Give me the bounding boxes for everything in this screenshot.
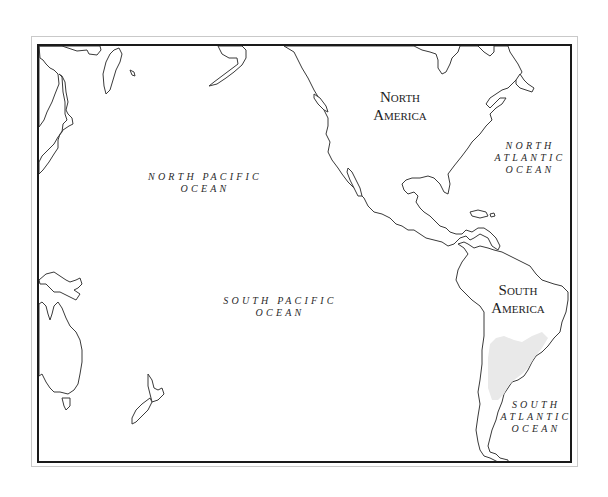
label-north-atlantic-ocean: NORTH ATLANTIC OCEAN — [485, 140, 575, 176]
australia — [39, 302, 82, 394]
tasmania — [62, 398, 70, 410]
new-guinea — [39, 272, 82, 300]
alaska-peninsula — [209, 46, 246, 86]
label-south-america-line2: America — [478, 299, 558, 317]
label-north-pacific-ocean: NORTH PACIFIC OCEAN — [130, 171, 280, 195]
label-south-pacific-line2: OCEAN — [205, 307, 355, 319]
label-south-america: South America — [478, 281, 558, 317]
label-south-atlantic-line3: OCEAN — [495, 423, 577, 435]
label-north-america-line2: America — [360, 106, 440, 124]
label-south-atlantic-line1: SOUTH — [495, 399, 577, 411]
label-north-pacific-line2: OCEAN — [130, 183, 280, 195]
label-north-atlantic-line2: ATLANTIC — [485, 152, 575, 164]
small-island — [130, 70, 135, 76]
newfoundland — [516, 74, 534, 92]
label-north-atlantic-line3: OCEAN — [485, 164, 575, 176]
sakhalin-island — [103, 48, 122, 94]
label-south-atlantic-line2: ATLANTIC — [495, 411, 577, 423]
world-map-outline — [39, 46, 572, 463]
east-asia-landmass — [39, 46, 101, 127]
new-zealand-south-island — [132, 398, 152, 424]
label-north-pacific-line1: NORTH PACIFIC — [130, 171, 280, 183]
label-south-pacific-ocean: SOUTH PACIFIC OCEAN — [205, 295, 355, 319]
label-south-pacific-line1: SOUTH PACIFIC — [205, 295, 355, 307]
label-north-atlantic-line1: NORTH — [485, 140, 575, 152]
hispaniola-island — [490, 213, 495, 217]
label-north-america: North America — [360, 88, 440, 124]
label-south-america-line1: South — [478, 281, 558, 299]
label-south-atlantic-ocean: SOUTH ATLANTIC OCEAN — [495, 399, 577, 435]
highlighted-region — [488, 332, 548, 400]
label-north-america-line1: North — [360, 88, 440, 106]
map-frame — [37, 44, 572, 463]
cuba-island — [470, 210, 488, 218]
